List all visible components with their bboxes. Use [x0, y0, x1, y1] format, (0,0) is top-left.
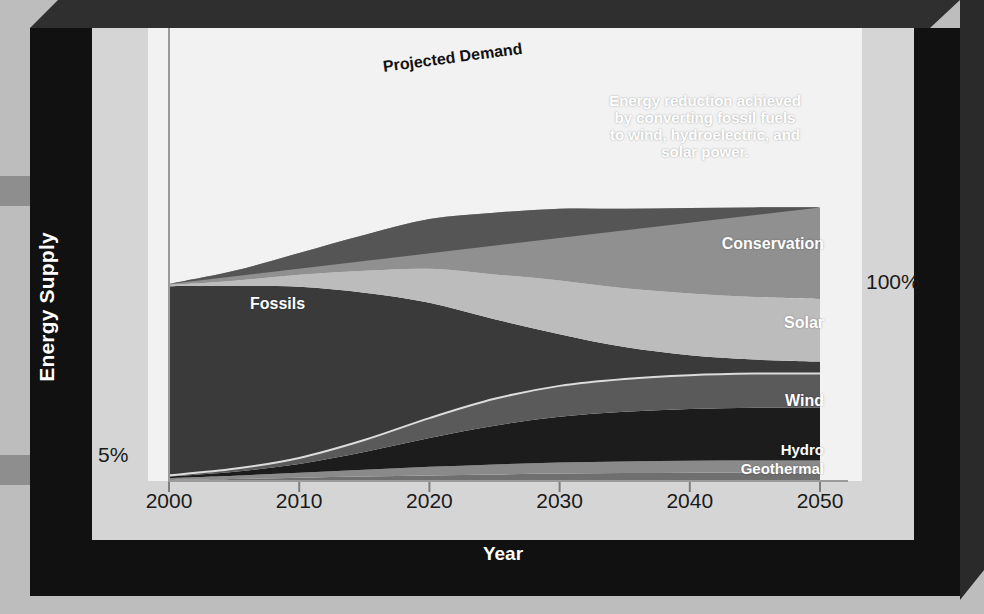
- series-label-fossils: Fossils: [250, 295, 305, 313]
- series-label-wind: Wind: [734, 392, 824, 410]
- x-tick-label-2030: 2030: [515, 489, 605, 513]
- x-axis-title: Year: [92, 543, 914, 565]
- series-label-geothermal: Geothermal: [664, 460, 824, 477]
- y-axis-label-bottom: 5%: [98, 443, 128, 467]
- x-tick-label-2040: 2040: [645, 489, 735, 513]
- series-label-conservation: Conservation: [704, 235, 824, 253]
- x-tick-label-2050: 2050: [775, 489, 865, 513]
- stacked-area-chart: [0, 0, 984, 614]
- series-label-solar: Solar: [744, 314, 824, 332]
- series-label-hydro: Hydro: [724, 441, 824, 458]
- x-tick-label-2020: 2020: [384, 489, 474, 513]
- x-tick-label-2000: 2000: [124, 489, 214, 513]
- x-tick-label-2010: 2010: [254, 489, 344, 513]
- y-axis-label-top: 100%: [866, 270, 920, 294]
- y-axis-title: Energy Supply: [35, 197, 59, 417]
- annotation-energy-reduction: Energy reduction achieved by converting …: [580, 92, 830, 160]
